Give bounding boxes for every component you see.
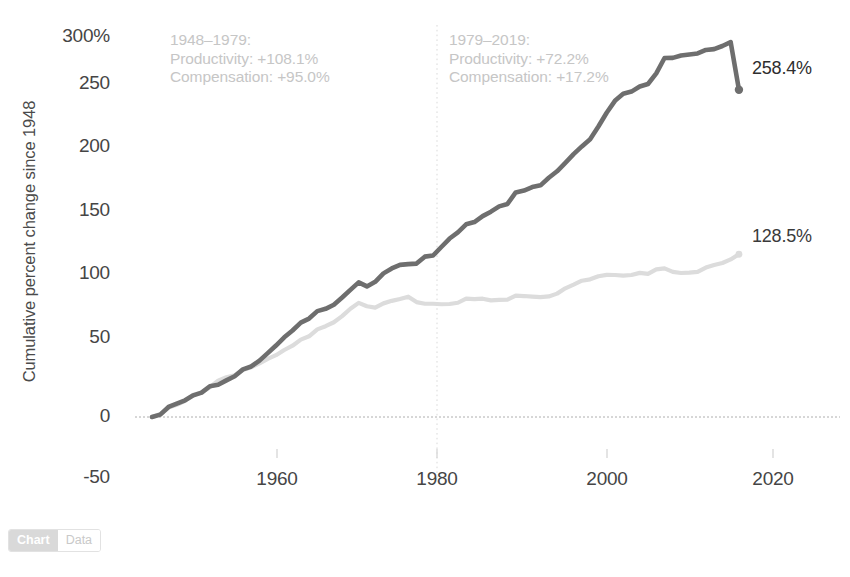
productivity-end-point <box>735 85 743 93</box>
compensation-line <box>152 254 739 417</box>
toggle-data-button[interactable]: Data <box>58 530 100 551</box>
productivity-line <box>152 42 739 417</box>
toggle-chart-button[interactable]: Chart <box>9 530 58 551</box>
axis-ticks <box>277 449 773 458</box>
view-toggle[interactable]: Chart Data <box>8 529 101 552</box>
plot-area <box>0 0 850 577</box>
chart-container: Cumulative percent change since 1948 300… <box>0 0 850 577</box>
compensation-end-point <box>736 251 743 258</box>
